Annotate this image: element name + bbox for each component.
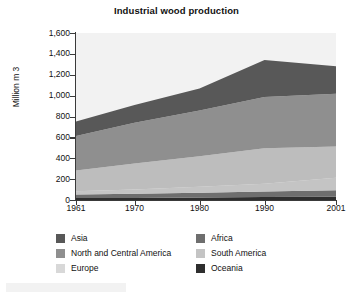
y-tick-label: 1,400 <box>30 48 70 58</box>
y-tick-label: 1,000 <box>30 90 70 100</box>
legend-swatch-icon <box>56 249 65 258</box>
legend-label: Asia <box>71 234 88 243</box>
y-tick-label: 600 <box>30 132 70 142</box>
plot-area <box>76 33 336 200</box>
stacked-area-plot <box>76 33 336 200</box>
legend-label: South America <box>211 249 266 258</box>
y-tick-mark <box>70 179 75 180</box>
legend-label: Africa <box>211 234 233 243</box>
legend-label: Oceania <box>211 264 243 273</box>
legend-item-oceania[interactable]: Oceania <box>196 264 346 273</box>
legend-swatch-icon <box>196 264 205 273</box>
chart-legend: AsiaAfricaNorth and Central AmericaSouth… <box>56 231 346 276</box>
legend-swatch-icon <box>56 264 65 273</box>
x-tick-label: 1990 <box>245 203 285 213</box>
y-tick-mark <box>70 75 75 76</box>
x-tick-label: 2001 <box>316 203 353 213</box>
x-tick-label: 1961 <box>56 203 96 213</box>
y-tick-mark <box>70 33 75 34</box>
figure-industrial-wood-production: Industrial wood production Million m 3 0… <box>0 0 353 296</box>
legend-item-europe[interactable]: Europe <box>56 264 196 273</box>
y-tick-label: 200 <box>30 174 70 184</box>
x-tick-label: 1980 <box>180 203 220 213</box>
y-tick-mark <box>70 137 75 138</box>
y-tick-label: 1,200 <box>30 69 70 79</box>
x-tick-label: 1970 <box>115 203 155 213</box>
y-tick-mark <box>70 117 75 118</box>
y-tick-label: 400 <box>30 153 70 163</box>
y-tick-mark <box>70 54 75 55</box>
legend-item-africa[interactable]: Africa <box>196 234 346 243</box>
legend-label: Europe <box>71 264 98 273</box>
legend-swatch-icon <box>56 234 65 243</box>
caption-fragment <box>6 283 126 292</box>
y-tick-mark <box>70 158 75 159</box>
y-tick-mark <box>70 200 75 201</box>
y-tick-mark <box>70 96 75 97</box>
legend-item-north-and-central-america[interactable]: North and Central America <box>56 249 196 258</box>
y-tick-label: 1,600 <box>30 28 70 38</box>
x-axis-line <box>75 200 337 201</box>
y-axis-label: Million m 3 <box>11 37 21 137</box>
legend-item-south-america[interactable]: South America <box>196 249 346 258</box>
legend-item-asia[interactable]: Asia <box>56 234 196 243</box>
legend-label: North and Central America <box>71 249 171 258</box>
legend-swatch-icon <box>196 234 205 243</box>
y-tick-label: 800 <box>30 111 70 121</box>
y-axis-line <box>75 32 76 201</box>
legend-swatch-icon <box>196 249 205 258</box>
